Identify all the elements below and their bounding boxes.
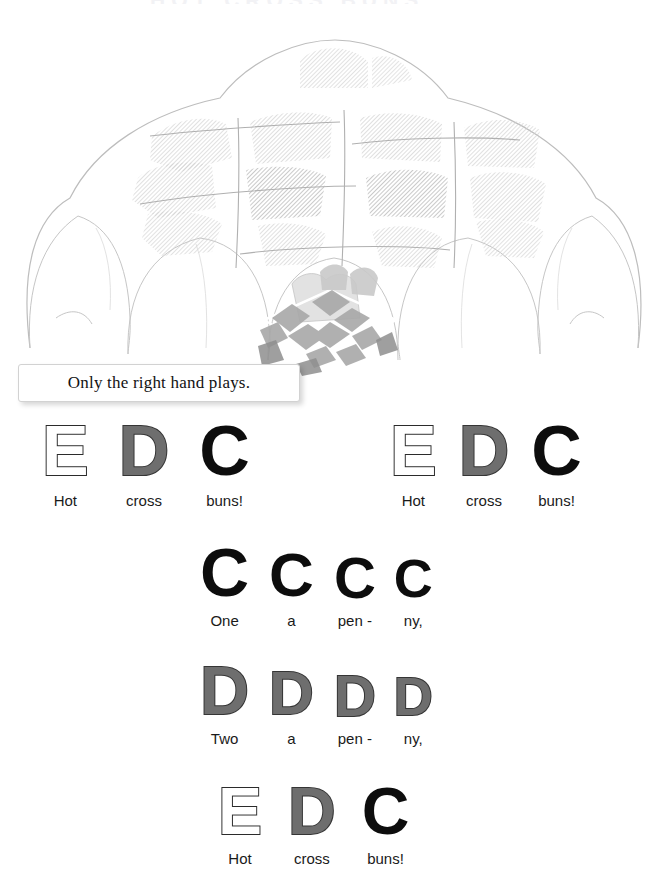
note-letter-d: D xyxy=(200,658,249,723)
note-d-cross: Dcross xyxy=(119,418,170,509)
note-c-buns: Cbuns! xyxy=(362,780,410,867)
note-letter-e: E xyxy=(390,418,437,485)
note-letter-c: C xyxy=(199,418,250,485)
lyric-text: ny, xyxy=(404,612,423,629)
note-letter-c: C xyxy=(269,546,314,605)
note-letter-d: D xyxy=(288,780,336,843)
note-letter-d: D xyxy=(119,418,170,485)
note-e-hot: EHot xyxy=(390,418,437,509)
note-letter-c: C xyxy=(531,418,582,485)
note-d-a: Da xyxy=(269,664,314,747)
lyric-text: buns! xyxy=(206,492,243,509)
line-4-hot-cross-buns: EHotDcrossCbuns! xyxy=(218,780,409,867)
note-d-pen: Dpen - xyxy=(334,668,376,747)
lyric-text: Hot xyxy=(402,492,425,509)
note-letter-d: D xyxy=(394,671,433,722)
lyric-text: Hot xyxy=(54,492,77,509)
note-letter-e: E xyxy=(42,418,89,485)
lyric-text: ny, xyxy=(404,730,423,747)
hot-cross-buns-illustration xyxy=(0,18,665,378)
page-header-remnant: HOT CROSS BUNS xyxy=(150,0,530,4)
caption-text: Only the right hand plays. xyxy=(68,373,250,393)
note-e-hot: EHot xyxy=(42,418,89,509)
note-c-pen: Cpen - xyxy=(334,550,376,629)
note-c-ny: Cny, xyxy=(394,553,433,628)
lyric-text: buns! xyxy=(367,850,404,867)
note-letter-c: C xyxy=(362,780,410,843)
page-root: HOT CROSS BUNS xyxy=(0,0,665,890)
note-d-two: DTwo xyxy=(200,658,249,747)
lyric-text: cross xyxy=(466,492,502,509)
line-2-one-a-penny: COneCaCpen -Cny, xyxy=(200,540,433,629)
note-letter-d: D xyxy=(269,664,314,723)
caption-box: Only the right hand plays. xyxy=(18,364,300,402)
line-1-phrase-b: EHotDcrossCbuns! xyxy=(390,418,582,509)
lyric-text: One xyxy=(210,612,238,629)
note-letter-d: D xyxy=(459,418,510,485)
note-c-one: COne xyxy=(200,540,249,629)
note-c-a: Ca xyxy=(269,546,314,629)
lyric-text: cross xyxy=(126,492,162,509)
note-letter-c: C xyxy=(394,553,433,604)
note-letter-d: D xyxy=(334,668,376,723)
note-d-cross: Dcross xyxy=(288,780,336,867)
note-e-hot: EHot xyxy=(218,780,262,867)
note-d-cross: Dcross xyxy=(459,418,510,509)
note-letter-c: C xyxy=(200,540,249,605)
lyric-text: a xyxy=(287,730,295,747)
line-1-phrase-a: EHotDcrossCbuns! xyxy=(42,418,250,509)
lyric-text: buns! xyxy=(538,492,575,509)
lyric-text: pen - xyxy=(338,730,372,747)
lyric-text: cross xyxy=(294,850,330,867)
note-c-buns: Cbuns! xyxy=(199,418,250,509)
note-letter-c: C xyxy=(334,550,376,605)
note-d-ny: Dny, xyxy=(394,671,433,746)
line-3-two-a-penny: DTwoDaDpen -Dny, xyxy=(200,658,433,747)
lyric-text: pen - xyxy=(338,612,372,629)
lyric-text: Hot xyxy=(228,850,251,867)
note-c-buns: Cbuns! xyxy=(531,418,582,509)
lyric-text: a xyxy=(287,612,295,629)
lyric-text: Two xyxy=(211,730,239,747)
note-letter-e: E xyxy=(218,780,262,843)
